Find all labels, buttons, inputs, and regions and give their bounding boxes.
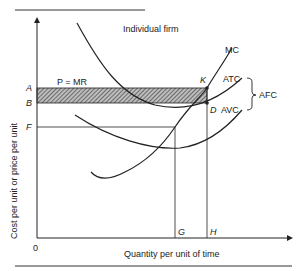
price-label-f: F xyxy=(26,123,32,132)
quantity-label-g: G xyxy=(178,228,185,237)
avc-curve xyxy=(75,110,242,148)
chart-title: Individual firm xyxy=(123,25,179,34)
loss-area xyxy=(37,88,207,103)
afc-brace xyxy=(247,78,256,110)
point-d xyxy=(205,101,209,105)
price-label-b: B xyxy=(26,99,32,108)
avc-label: AVC xyxy=(221,106,239,115)
price-line-label: P = MR xyxy=(57,78,87,87)
quantity-label-h: H xyxy=(210,228,217,237)
point-k-label: K xyxy=(200,76,206,85)
origin-label: 0 xyxy=(33,244,38,253)
price-label-a: A xyxy=(26,84,32,93)
point-d-label: D xyxy=(210,106,217,115)
point-k xyxy=(205,86,209,90)
diagram-canvas xyxy=(0,0,307,271)
x-axis-label: Quantity per unit of time xyxy=(124,250,220,259)
atc-label: ATC xyxy=(223,75,240,84)
y-axis-label: Cost per unit or price per unit xyxy=(9,111,19,251)
mc-label: MC xyxy=(225,46,239,55)
afc-label: AFC xyxy=(259,91,277,100)
